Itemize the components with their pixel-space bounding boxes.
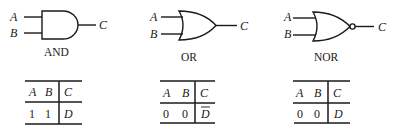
or-row-b: 0 [182,107,188,121]
and-header-b: B [45,85,53,99]
nor-input-a-label: A [283,10,292,24]
and-input-b-label: B [10,26,18,40]
or-row-a: 0 [163,107,169,121]
or-input-b-label: B [150,27,158,41]
or-gate-symbol [179,11,216,40]
nor-row-c: D [333,107,343,121]
and-header-a: A [28,85,37,99]
nor-truth-table: A B C 0 0 D [293,81,350,123]
and-truth-table: A B C 1 1 D [25,81,82,124]
or-input-a-label: A [149,10,158,24]
or-output-label: C [240,19,249,33]
nor-header-c: C [333,86,342,100]
and-gate: A B C AND [9,10,108,58]
nor-gate: A B C NOR [283,10,387,63]
or-truth-table: A B C 0 0 D [160,81,215,123]
or-header-c: C [200,86,209,100]
logic-gates-diagram: A B C AND A B C 1 1 D A B C OR A B [0,0,399,132]
and-row-a: 1 [29,107,35,121]
or-gate: A B C OR [149,10,249,63]
nor-row-a: 0 [297,107,303,121]
nor-row-b: 0 [314,107,320,121]
and-gate-symbol [42,11,78,39]
nor-output-label: C [378,20,387,34]
or-header-a: A [162,86,171,100]
or-gate-name: OR [181,51,197,63]
or-header-b: B [182,86,190,100]
and-row-c: D [63,107,73,121]
and-gate-name: AND [44,46,69,58]
nor-input-b-label: B [284,27,292,41]
nor-gate-name: NOR [314,51,339,63]
or-row-c: D [200,107,210,121]
nor-header-b: B [314,86,322,100]
nor-gate-symbol [313,12,350,41]
and-input-a-label: A [9,10,18,24]
nor-header-a: A [295,86,304,100]
and-output-label: C [99,18,108,32]
and-row-b: 1 [45,107,51,121]
and-header-c: C [64,85,73,99]
